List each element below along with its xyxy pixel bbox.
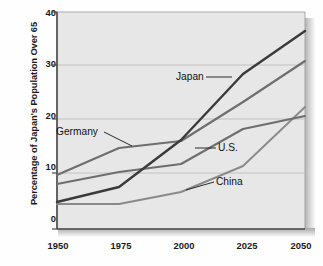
plot-background [57,12,305,229]
series-label-germany: Germany [56,126,98,137]
plot-area [0,0,323,266]
plot-shadow-right [305,18,315,230]
chart-container: Percentage of Japan's Population Over 65… [0,0,323,266]
series-label-us: U.S. [218,142,238,153]
series-label-china: China [216,176,243,187]
series-label-japan: Japan [176,71,204,82]
